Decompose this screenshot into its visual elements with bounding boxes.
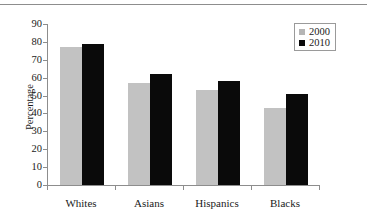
legend-label-2010: 2010 [309, 37, 330, 48]
legend-item-2000: 2000 [299, 26, 330, 37]
x-category-label-whites: Whites [47, 196, 115, 210]
bar-chart-figure: Percentage 0102030405060708090 WhitesAsi… [0, 0, 367, 214]
bars-layer [48, 18, 320, 186]
y-tick-label: 90 [32, 17, 43, 30]
y-tick-label: 40 [32, 106, 43, 119]
bar-blacks-2000 [264, 108, 286, 185]
legend-swatch-gray-square-icon [299, 29, 305, 35]
x-category-label-asians: Asians [115, 196, 183, 210]
bar-whites-2000 [60, 47, 82, 185]
y-tick-label: 0 [37, 178, 42, 191]
legend-item-2010: 2010 [299, 37, 330, 48]
bar-asians-2000 [128, 83, 150, 185]
legend-swatch-black-square-icon [299, 40, 305, 46]
bar-blacks-2010 [286, 94, 308, 185]
bar-hispanics-2010 [218, 81, 240, 185]
bar-asians-2010 [150, 74, 172, 185]
chart-legend: 2000 2010 [294, 23, 336, 51]
y-tick-label: 60 [32, 71, 43, 84]
y-tick-label: 10 [32, 160, 43, 173]
legend-label-2000: 2000 [309, 26, 330, 37]
y-tick-label: 70 [32, 53, 43, 66]
top-divider-rule [0, 4, 367, 5]
plot-area: 0102030405060708090 WhitesAsiansHispanic… [47, 18, 320, 191]
y-tick-label: 80 [32, 35, 43, 48]
y-tick-label: 50 [32, 89, 43, 102]
y-tick-label: 30 [32, 124, 43, 137]
x-category-label-blacks: Blacks [251, 196, 319, 210]
y-tick-label: 20 [32, 142, 43, 155]
x-category-label-hispanics: Hispanics [183, 196, 251, 210]
bar-hispanics-2000 [196, 90, 218, 185]
bar-whites-2010 [82, 44, 104, 185]
